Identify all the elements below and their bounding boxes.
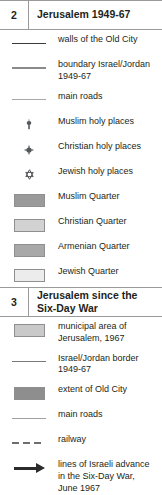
legend-entries-section-2: walls of the Old City boundary Israel/Jo…	[0, 30, 162, 287]
section-title: Jerusalem since the Six-Day War	[29, 288, 162, 316]
israeli-advance-symbol	[0, 459, 58, 474]
color-swatch	[14, 387, 45, 400]
legend-item-jewish-quarter: Jewish Quarter	[0, 262, 162, 287]
jewish-holy-place-symbol	[0, 166, 58, 181]
dashed-line-icon	[12, 442, 46, 444]
legend-label: Israel/Jordan border 1949-67	[58, 353, 159, 377]
line-boundary-symbol	[0, 59, 58, 74]
legend-item-main-roads-2: main roads	[0, 405, 162, 430]
legend-label: boundary Israel/Jordan 1949-67	[58, 59, 159, 83]
crescent-mosque-icon	[23, 119, 35, 131]
thin-line-icon	[12, 418, 46, 419]
thin-line-icon	[12, 99, 46, 100]
armenian-quarter-symbol	[0, 241, 58, 257]
line-main-roads-symbol	[0, 91, 58, 106]
legend-item-muslim-holy-places: Muslim holy places	[0, 112, 162, 137]
legend-label: Muslim holy places	[58, 116, 159, 128]
arrow-shaft	[14, 467, 36, 470]
legend-label: lines of Israeli advance in the Six-Day …	[58, 459, 159, 495]
legend-entries-section-3: municipal area of Jerusalem, 1967 Israel…	[0, 317, 162, 495]
thick-line-icon	[12, 67, 46, 69]
border-line-symbol	[0, 353, 58, 368]
color-swatch	[14, 269, 45, 282]
legend-item-walls-of-the-old-city: walls of the Old City	[0, 30, 162, 55]
cross-in-circle-icon	[23, 144, 35, 156]
arrow-icon	[14, 463, 45, 473]
legend-label: Christian Quarter	[58, 216, 159, 228]
muslim-holy-place-symbol	[0, 116, 58, 131]
section-number: 3	[0, 288, 29, 316]
legend-item-christian-holy-places: Christian holy places	[0, 137, 162, 162]
jewish-quarter-symbol	[0, 266, 58, 282]
legend-item-main-roads: main roads	[0, 87, 162, 112]
main-roads-symbol	[0, 409, 58, 424]
legend-label: Jewish holy places	[58, 166, 159, 178]
christian-quarter-symbol	[0, 216, 58, 232]
legend-label: Christian holy places	[58, 141, 159, 153]
legend-label: Jewish Quarter	[58, 266, 159, 278]
legend-item-boundary-israel-jordan: boundary Israel/Jordan 1949-67	[0, 55, 162, 87]
legend-item-muslim-quarter: Muslim Quarter	[0, 187, 162, 212]
legend-label: Armenian Quarter	[58, 241, 159, 253]
section-number: 2	[0, 1, 29, 29]
color-swatch	[14, 244, 45, 257]
muslim-quarter-symbol	[0, 191, 58, 207]
legend-item-israel-jordan-border: Israel/Jordan border 1949-67	[0, 349, 162, 381]
legend-label: railway	[58, 434, 159, 446]
legend-label: main roads	[58, 409, 159, 421]
legend-label: walls of the Old City	[58, 34, 159, 46]
legend-label: main roads	[58, 91, 159, 103]
legend-item-extent-of-old-city: extent of Old City	[0, 380, 162, 405]
legend-item-jewish-holy-places: Jewish holy places	[0, 162, 162, 187]
arrow-head	[36, 463, 45, 473]
legend-section-header-3: 3 Jerusalem since the Six-Day War	[0, 287, 162, 317]
railway-symbol	[0, 434, 58, 449]
legend-item-railway: railway	[0, 430, 162, 455]
solid-line-icon	[12, 361, 46, 362]
color-swatch	[14, 194, 45, 207]
star-of-david-icon	[23, 169, 35, 181]
solid-line-icon	[12, 43, 46, 44]
legend-label: Muslim Quarter	[58, 191, 159, 203]
legend-section-header-2: 2 Jerusalem 1949-67	[0, 0, 162, 30]
section-title: Jerusalem 1949-67	[29, 1, 162, 29]
christian-holy-place-symbol	[0, 141, 58, 156]
legend-item-israeli-advance: lines of Israeli advance in the Six-Day …	[0, 455, 162, 495]
legend-item-municipal-area: municipal area of Jerusalem, 1967	[0, 317, 162, 349]
color-swatch	[14, 219, 45, 232]
line-walls-symbol	[0, 34, 58, 49]
color-swatch	[14, 324, 45, 337]
legend-label: municipal area of Jerusalem, 1967	[58, 321, 159, 345]
municipal-area-symbol	[0, 321, 58, 337]
old-city-extent-symbol	[0, 384, 58, 400]
legend-item-armenian-quarter: Armenian Quarter	[0, 237, 162, 262]
legend-label: extent of Old City	[58, 384, 159, 396]
legend-item-christian-quarter: Christian Quarter	[0, 212, 162, 237]
